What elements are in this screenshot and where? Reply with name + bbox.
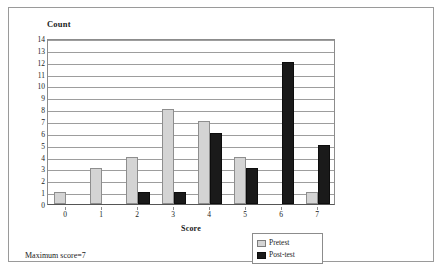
- bar-pretest-score-4: [198, 121, 210, 204]
- chart-legend: Pretest Post-test: [252, 233, 323, 264]
- bar-posttest-score-4: [210, 133, 222, 204]
- x-axis-ticks: 01234567: [47, 207, 335, 223]
- bar-posttest-score-6: [282, 62, 294, 204]
- figure-frame: Count 01234567891011121314 01234567 Scor…: [8, 7, 434, 262]
- y-tick-label: 1: [41, 190, 45, 198]
- bar-posttest-score-3: [174, 192, 186, 204]
- y-tick-label: 11: [38, 72, 45, 80]
- y-tick-label: 0: [41, 202, 45, 210]
- bar-pretest-score-0: [54, 192, 66, 204]
- legend-label-posttest: Post-test: [269, 251, 295, 259]
- x-tick-label: 4: [207, 211, 211, 219]
- bar-posttest-score-2: [138, 192, 150, 204]
- x-tick-label: 1: [99, 211, 103, 219]
- bar-pretest-score-1: [90, 168, 102, 204]
- y-tick-label: 6: [41, 131, 45, 139]
- bar-posttest-score-7: [318, 145, 330, 204]
- legend-label-pretest: Pretest: [269, 239, 289, 247]
- bar-pretest-score-7: [306, 192, 318, 204]
- bar-pretest-score-3: [162, 109, 174, 204]
- y-tick-label: 10: [38, 84, 46, 92]
- y-tick-label: 4: [41, 155, 45, 163]
- y-tick-label: 5: [41, 143, 45, 151]
- y-tick-label: 12: [38, 60, 46, 68]
- legend-swatch-pretest: [257, 240, 266, 247]
- y-tick-label: 9: [41, 96, 45, 104]
- y-axis-title: Count: [47, 19, 71, 29]
- legend-item-posttest: Post-test: [257, 249, 322, 261]
- y-tick-label: 8: [41, 107, 45, 115]
- y-tick-label: 3: [41, 167, 45, 175]
- y-tick-label: 13: [38, 48, 46, 56]
- bar-pretest-score-2: [126, 157, 138, 204]
- x-tick-label: 5: [243, 211, 247, 219]
- y-tick-label: 2: [41, 179, 45, 187]
- x-tick-label: 3: [171, 211, 175, 219]
- x-tick-label: 0: [63, 211, 67, 219]
- legend-item-pretest: Pretest: [257, 237, 322, 249]
- y-tick-label: 14: [38, 36, 46, 44]
- figure-caption: Maximum score=7: [25, 251, 86, 260]
- bar-pretest-score-5: [234, 157, 246, 204]
- x-tick-label: 7: [315, 211, 319, 219]
- plot-area: 01234567891011121314: [47, 39, 335, 205]
- x-tick-label: 6: [279, 211, 283, 219]
- bars-layer: [48, 40, 334, 204]
- y-tick-label: 7: [41, 119, 45, 127]
- legend-swatch-posttest: [257, 252, 266, 259]
- x-tick-label: 2: [135, 211, 139, 219]
- x-axis-title: Score: [47, 224, 335, 233]
- bar-posttest-score-5: [246, 168, 258, 204]
